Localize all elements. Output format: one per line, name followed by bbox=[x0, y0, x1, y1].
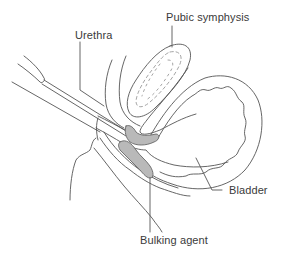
diagram-canvas: Pubic symphysis Urethra Bladder Bulking … bbox=[0, 0, 285, 255]
label-bulking-agent: Bulking agent bbox=[140, 234, 208, 246]
tissue-fold-3 bbox=[140, 68, 196, 134]
label-pubic-symphysis: Pubic symphysis bbox=[166, 11, 249, 23]
anatomy-illustration bbox=[0, 0, 285, 255]
urethra-leader bbox=[80, 42, 104, 106]
label-urethra: Urethra bbox=[75, 29, 112, 41]
urethra-wall-lower bbox=[96, 128, 228, 167]
pubic-symphysis-inner bbox=[136, 52, 181, 107]
label-bladder: Bladder bbox=[229, 184, 268, 196]
needle-shaft-bottom bbox=[42, 84, 126, 136]
bulking-agent-lower bbox=[119, 141, 154, 178]
scope-handle bbox=[18, 56, 45, 83]
perineum-contour bbox=[70, 138, 96, 200]
bulking-agent-upper bbox=[125, 125, 159, 145]
bladder-inner-wall bbox=[157, 87, 246, 177]
